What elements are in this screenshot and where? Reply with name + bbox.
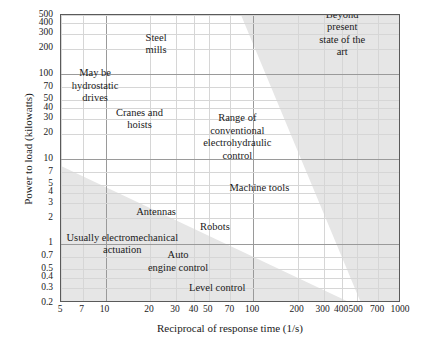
x-tick-50: 50 bbox=[203, 305, 213, 315]
x-tick-1000: 1000 bbox=[391, 305, 410, 315]
x-axis-title: Reciprocal of response time (1/s) bbox=[60, 322, 400, 334]
gridline-x-5 bbox=[61, 15, 62, 301]
x-tick-200: 200 bbox=[290, 305, 304, 315]
x-tick-20: 20 bbox=[144, 305, 154, 315]
gridline-y-0.7 bbox=[61, 257, 399, 258]
x-tick-300: 300 bbox=[316, 305, 330, 315]
y-tick-100: 100 bbox=[39, 69, 57, 79]
y-tick-30: 30 bbox=[44, 113, 58, 123]
y-tick-0.2: 0.2 bbox=[41, 298, 57, 308]
chart-figure: Steel millsMay be hydrostatic drivesCran… bbox=[0, 0, 421, 344]
annotation-steel-mills: Steel mills bbox=[146, 31, 167, 56]
gridline-y-3 bbox=[61, 203, 399, 204]
x-tick-30: 30 bbox=[170, 305, 180, 315]
gridline-y-0.4 bbox=[61, 278, 399, 279]
x-tick-100: 100 bbox=[245, 305, 259, 315]
y-tick-10: 10 bbox=[44, 154, 58, 164]
y-tick-40: 40 bbox=[44, 103, 58, 113]
annotation-level-control: Level control bbox=[189, 282, 245, 295]
annotation-antennas: Antennas bbox=[136, 205, 176, 218]
x-tick-700: 700 bbox=[370, 305, 384, 315]
y-tick-0.7: 0.7 bbox=[41, 251, 57, 261]
gridline-y-40 bbox=[61, 108, 399, 109]
annotation-cranes-and-hoists: Cranes and hoists bbox=[116, 106, 163, 131]
gridline-x-10 bbox=[106, 15, 107, 301]
y-tick-200: 200 bbox=[39, 43, 57, 53]
x-tick-10: 10 bbox=[100, 305, 110, 315]
y-tick-300: 300 bbox=[39, 28, 57, 38]
gridline-x-7 bbox=[83, 15, 84, 301]
annotation-range-of-conventional-electrohydraulic-control: Range of conventional electrohydraulic c… bbox=[203, 112, 271, 162]
annotation-beyond-present-state: Beyond present state of the art bbox=[314, 14, 371, 59]
annotation-may-be-hydrostatic-drives: May be hydrostatic drives bbox=[72, 68, 119, 106]
y-tick-3: 3 bbox=[48, 198, 57, 208]
x-tick-7: 7 bbox=[79, 305, 84, 315]
x-tick-40: 40 bbox=[189, 305, 199, 315]
y-tick-400: 400 bbox=[39, 18, 57, 28]
gridline-x-700 bbox=[378, 15, 379, 301]
gridline-x-200 bbox=[298, 15, 299, 301]
y-tick-70: 70 bbox=[44, 82, 58, 92]
y-tick-20: 20 bbox=[44, 128, 58, 138]
annotation-auto-engine-control: Auto engine control bbox=[148, 249, 208, 274]
plot-area: Steel millsMay be hydrostatic drivesCran… bbox=[60, 14, 400, 302]
y-tick-2: 2 bbox=[48, 213, 57, 223]
gridline-y-0.5 bbox=[61, 269, 399, 270]
annotation-machine-tools: Machine tools bbox=[230, 181, 290, 194]
y-tick-4: 4 bbox=[48, 187, 57, 197]
y-tick-7: 7 bbox=[48, 167, 57, 177]
x-axis-tick-labels: 571020304050701002003004005007001000 bbox=[60, 305, 400, 319]
x-tick-500: 500 bbox=[348, 305, 362, 315]
y-tick-1: 1 bbox=[48, 238, 57, 248]
x-tick-70: 70 bbox=[225, 305, 235, 315]
y-axis-title: Power to load (kilowatts) bbox=[22, 59, 34, 239]
x-tick-5: 5 bbox=[58, 305, 63, 315]
annotation-robots: Robots bbox=[200, 220, 230, 233]
x-tick-400: 400 bbox=[334, 305, 348, 315]
y-tick-0.4: 0.4 bbox=[41, 272, 57, 282]
gridline-y-7 bbox=[61, 172, 399, 173]
gridline-y-2 bbox=[61, 218, 399, 219]
y-tick-0.3: 0.3 bbox=[41, 283, 57, 293]
